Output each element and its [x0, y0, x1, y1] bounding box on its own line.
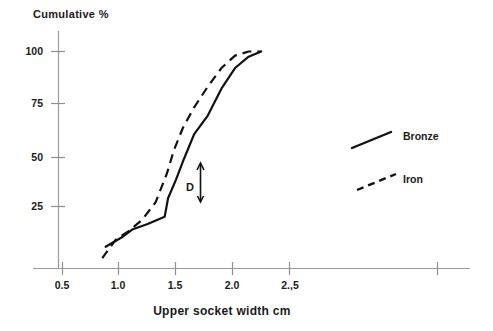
chart-canvas: Cumulative % 100 75 50 25 0.5 1.0 1.5	[0, 0, 493, 331]
legend-swatch-bronze	[352, 132, 391, 148]
chart-legend: Bronze Iron	[352, 130, 439, 190]
x-axis-title: Upper socket width cm	[153, 304, 291, 318]
y-tick-label-100: 100	[25, 45, 43, 57]
annotation-d-label: D	[186, 181, 194, 193]
series-line-bronze	[106, 52, 262, 247]
legend-swatch-iron	[357, 174, 396, 190]
x-tick-label-2-5: 2.,5	[281, 279, 299, 291]
x-tick-label-2-0: 2.0	[225, 279, 240, 291]
series-line-iron	[102, 52, 261, 259]
x-tick-label-1-0: 1.0	[111, 279, 126, 291]
legend-label-bronze: Bronze	[403, 130, 439, 142]
x-tick-label-0-5: 0.5	[55, 279, 70, 291]
y-tick-label-25: 25	[31, 200, 43, 212]
y-tick-label-75: 75	[31, 97, 43, 109]
annotation-d: D	[186, 163, 204, 202]
x-tick-label-1-5: 1.5	[168, 279, 183, 291]
chart-figure: Cumulative % 100 75 50 25 0.5 1.0 1.5	[0, 0, 493, 331]
y-tick-label-50: 50	[31, 151, 43, 163]
y-axis-title: Cumulative %	[33, 8, 109, 20]
legend-label-iron: Iron	[403, 173, 423, 185]
